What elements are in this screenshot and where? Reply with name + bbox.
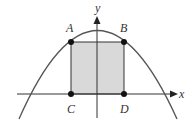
label-d: D	[119, 102, 129, 116]
point-a	[68, 39, 74, 45]
x-axis-arrow-icon	[170, 91, 178, 98]
point-c	[68, 91, 74, 97]
diagram-canvas: A B C D y x	[0, 0, 186, 126]
y-axis-arrow-icon	[94, 16, 101, 24]
point-d	[121, 91, 127, 97]
label-c: C	[67, 102, 76, 116]
label-a: A	[65, 21, 74, 35]
point-b	[121, 39, 127, 45]
label-b: B	[120, 21, 128, 35]
x-axis-label: x	[178, 87, 185, 101]
y-axis-label: y	[94, 1, 101, 15]
